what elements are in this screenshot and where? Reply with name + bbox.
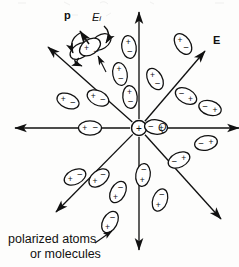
dipole-12: +− bbox=[149, 187, 170, 213]
dipole-4: +− bbox=[171, 30, 196, 57]
dipole-plus-charge: + bbox=[91, 91, 96, 101]
dipole-minus-charge: − bbox=[128, 96, 134, 107]
dipole-minus-charge: − bbox=[148, 121, 154, 132]
field-label-E: E bbox=[213, 35, 220, 46]
dipole-plus-charge: + bbox=[140, 175, 145, 185]
dipole-18: +− bbox=[98, 208, 122, 235]
dipole-14: +− bbox=[55, 90, 82, 112]
dipole-body bbox=[197, 98, 223, 118]
dipole-7: +− bbox=[193, 134, 218, 153]
scan-artifacts bbox=[18, 2, 224, 16]
dipole-plus-charge: + bbox=[156, 200, 161, 210]
dipole-plus-charge: + bbox=[92, 176, 97, 186]
dipole-body bbox=[172, 84, 199, 108]
dipole-plus-charge: + bbox=[61, 94, 66, 104]
cluster-leader-line bbox=[98, 56, 106, 72]
dipole-body bbox=[166, 148, 193, 171]
dipole-plus-charge: + bbox=[181, 153, 186, 163]
dipole-minus-charge: − bbox=[100, 169, 106, 180]
dipole-1: +− bbox=[120, 35, 137, 60]
dipole-plus-charge: + bbox=[68, 174, 73, 184]
dipole-minus-charge: − bbox=[77, 169, 83, 180]
dipole-minus-charge: − bbox=[183, 42, 189, 53]
charge-sign: + bbox=[136, 123, 142, 134]
dipole-body bbox=[55, 90, 82, 112]
cluster-plus-charge: + bbox=[84, 43, 89, 53]
charge-label-Q: Q bbox=[158, 122, 167, 133]
figure-caption: polarized atoms or molecules bbox=[8, 232, 101, 263]
dipole-plus-charge: + bbox=[178, 35, 183, 45]
diagram-canvas: + +−+−+−+−+−+−+−+−+−+−+−+−+−+−+−+−+−+−+−… bbox=[0, 0, 239, 267]
dipole-minus-charge: − bbox=[127, 46, 133, 57]
dipole-8: +− bbox=[166, 148, 193, 171]
caption-line-1: polarized atoms bbox=[8, 232, 101, 247]
dipole-15: +− bbox=[85, 86, 112, 109]
dipole-6: +− bbox=[197, 98, 223, 118]
dipole-body bbox=[85, 86, 112, 109]
dipole-minus-charge: − bbox=[172, 156, 178, 167]
dipole-body bbox=[193, 134, 218, 153]
dipole-plus-charge: + bbox=[82, 123, 87, 133]
dipole-minus-charge: − bbox=[179, 88, 185, 99]
dipole-plus-charge: + bbox=[113, 192, 118, 202]
dipole-minus-charge: − bbox=[159, 189, 165, 200]
dipole-10: +− bbox=[134, 163, 151, 188]
dipole-body bbox=[62, 165, 89, 188]
dipole-minus-charge: − bbox=[110, 212, 116, 223]
dipole-minus-charge: − bbox=[70, 97, 76, 108]
internal-field-label: Ei bbox=[92, 12, 101, 23]
dipole-plus-charge: + bbox=[212, 105, 217, 115]
polarization-diagram: + +−+−+−+−+−+−+−+−+−+−+−+−+−+−+−+−+−+−+−… bbox=[0, 0, 239, 267]
dipole-11: +− bbox=[106, 178, 130, 205]
dipole-16: +− bbox=[62, 165, 89, 188]
dipole-minus-charge: − bbox=[141, 164, 147, 175]
dipole-cluster-detail: + − bbox=[67, 26, 114, 72]
dipole-minus-charge: − bbox=[118, 73, 124, 84]
dipole-minus-charge: − bbox=[155, 78, 161, 89]
dipole-minus-charge: − bbox=[118, 182, 124, 193]
dipole-3: +− bbox=[122, 85, 138, 109]
dipole-minus-charge: − bbox=[100, 94, 106, 105]
internal-field-subscript: i bbox=[99, 14, 101, 23]
polarization-label: p bbox=[64, 10, 71, 21]
dipole-plus-charge: + bbox=[105, 222, 110, 232]
dipole-13: +− bbox=[79, 121, 102, 135]
dipole-minus-charge: − bbox=[198, 138, 204, 149]
caption-line-2: or molecules bbox=[8, 247, 101, 262]
cluster-minus-charge: − bbox=[93, 46, 98, 56]
dipole-19: +− bbox=[111, 61, 129, 86]
dipole-2: +− bbox=[143, 65, 167, 92]
dipole-minus-charge: − bbox=[202, 101, 208, 112]
dipole-minus-charge: − bbox=[92, 122, 98, 133]
dipole-plus-charge: + bbox=[188, 94, 193, 104]
dipole-5: +− bbox=[172, 84, 199, 108]
dipole-plus-charge: + bbox=[209, 137, 214, 147]
